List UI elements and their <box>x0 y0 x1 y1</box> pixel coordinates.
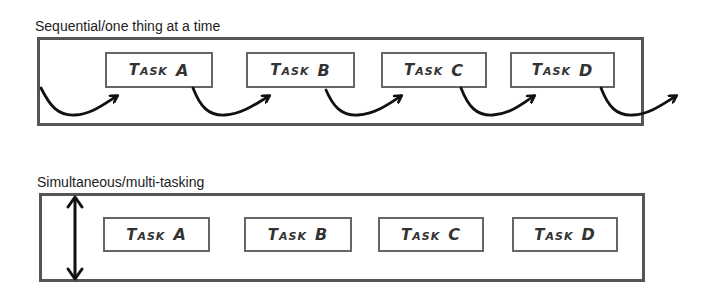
task-label: Task <box>401 226 440 244</box>
task-label: Task <box>270 61 309 79</box>
sequential-task-c: Task C <box>381 52 487 88</box>
task-label: Task <box>129 61 168 79</box>
task-letter: B <box>318 61 331 80</box>
sequential-task-d: Task D <box>510 52 615 88</box>
task-letter: D <box>579 61 593 80</box>
simultaneous-task-c: Task C <box>378 217 484 252</box>
simultaneous-task-d: Task D <box>512 217 618 252</box>
task-letter: C <box>448 225 461 244</box>
sequential-task-a: Task A <box>105 52 213 88</box>
task-letter: D <box>581 225 595 244</box>
task-letter: C <box>451 61 464 80</box>
sequential-heading: Sequential/one thing at a time <box>35 18 220 34</box>
simultaneous-heading: Simultaneous/multi-tasking <box>37 174 204 190</box>
simultaneous-task-b: Task B <box>244 217 352 252</box>
task-label: Task <box>404 61 443 79</box>
task-letter: A <box>173 225 186 244</box>
task-letter: A <box>176 61 189 80</box>
task-label: Task <box>532 61 571 79</box>
task-letter: B <box>315 225 328 244</box>
task-label: Task <box>534 226 573 244</box>
simultaneous-task-a: Task A <box>103 217 210 252</box>
task-label: Task <box>268 226 307 244</box>
sequential-task-b: Task B <box>246 52 355 88</box>
task-label: Task <box>126 226 165 244</box>
